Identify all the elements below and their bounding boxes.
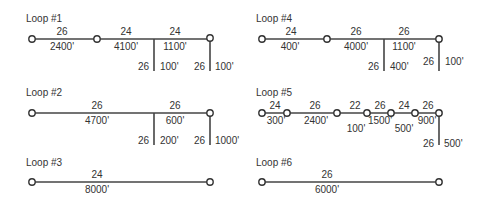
loop-title: Loop #6 bbox=[256, 157, 293, 168]
branch-size: 26 bbox=[423, 56, 435, 67]
loop-1: Loop #1 26 2400' 24 4100' 24 1100' 26 10… bbox=[26, 13, 234, 72]
branch-length: 100' bbox=[215, 61, 234, 72]
loop-title: Loop #3 bbox=[26, 157, 63, 168]
segment-length: 1100' bbox=[163, 41, 187, 52]
segment-size: 24 bbox=[91, 169, 103, 180]
node-icon bbox=[259, 110, 265, 116]
segment-size: 26 bbox=[422, 100, 434, 111]
node-icon bbox=[29, 179, 35, 185]
segment-length: 6000' bbox=[315, 184, 339, 195]
node-icon bbox=[259, 36, 265, 42]
segment-size: 24 bbox=[269, 100, 281, 111]
segment-size: 26 bbox=[374, 100, 386, 111]
node-icon bbox=[207, 179, 213, 185]
node-icon bbox=[94, 36, 100, 42]
node-icon bbox=[207, 35, 213, 41]
node-icon bbox=[324, 36, 330, 42]
branch-size: 26 bbox=[368, 61, 380, 72]
segment-length: 100' bbox=[347, 123, 366, 134]
segment-size: 22 bbox=[349, 100, 361, 111]
segment-size: 26 bbox=[398, 26, 410, 37]
node-icon bbox=[436, 179, 442, 185]
loop-6: Loop #6 26 6000' bbox=[256, 157, 442, 195]
branch-length: 100' bbox=[445, 56, 464, 67]
branch-size: 26 bbox=[194, 135, 206, 146]
segment-length: 4700' bbox=[85, 115, 109, 126]
loop-title: Loop #2 bbox=[26, 87, 63, 98]
branch-length: 500' bbox=[444, 138, 463, 149]
segment-length: 900' bbox=[418, 115, 437, 126]
branch-length: 100' bbox=[160, 61, 179, 72]
segment-length: 1100' bbox=[392, 41, 416, 52]
node-icon bbox=[334, 110, 340, 116]
segment-length: 1500' bbox=[368, 115, 392, 126]
loop-diagram: Loop #1 26 2400' 24 4100' 24 1100' 26 10… bbox=[0, 0, 488, 206]
segment-length: 4000' bbox=[344, 41, 368, 52]
loop-3: Loop #3 24 8000' bbox=[26, 157, 213, 195]
segment-size: 24 bbox=[169, 26, 181, 37]
segment-size: 26 bbox=[56, 26, 68, 37]
segment-size: 24 bbox=[285, 26, 297, 37]
segment-size: 26 bbox=[309, 100, 321, 111]
loop-title: Loop #4 bbox=[256, 13, 293, 24]
node-icon bbox=[29, 36, 35, 42]
segment-length: 2400' bbox=[50, 41, 74, 52]
branch-length: 1000' bbox=[215, 135, 239, 146]
branch-size: 26 bbox=[423, 138, 435, 149]
branch-length: 200' bbox=[160, 135, 179, 146]
segment-size: 24 bbox=[120, 26, 132, 37]
node-icon bbox=[207, 110, 213, 116]
segment-length: 2400' bbox=[304, 115, 328, 126]
loop-title: Loop #1 bbox=[26, 13, 63, 24]
node-icon bbox=[259, 179, 265, 185]
node-icon bbox=[29, 110, 35, 116]
node-icon bbox=[436, 110, 442, 116]
loop-2: Loop #2 26 4700' 26 600' 26 200' 26 1000… bbox=[26, 87, 239, 146]
loop-5: Loop #5 24 300' 26 2400' 22 100' 26 1500… bbox=[256, 87, 463, 149]
segment-length: 8000' bbox=[85, 184, 109, 195]
branch-size: 26 bbox=[138, 61, 150, 72]
loop-4: Loop #4 24 400' 26 4000' 26 1100' 26 400… bbox=[256, 13, 464, 72]
branch-length: 400' bbox=[390, 61, 409, 72]
segment-size: 26 bbox=[169, 100, 181, 111]
segment-length: 600' bbox=[166, 115, 185, 126]
branch-size: 26 bbox=[194, 61, 206, 72]
segment-size: 24 bbox=[398, 100, 410, 111]
node-icon bbox=[436, 36, 442, 42]
segment-length: 300' bbox=[267, 115, 286, 126]
segment-size: 26 bbox=[350, 26, 362, 37]
loop-title: Loop #5 bbox=[256, 87, 293, 98]
segment-length: 500' bbox=[395, 123, 414, 134]
segment-size: 26 bbox=[91, 100, 103, 111]
segment-length: 4100' bbox=[114, 41, 138, 52]
segment-length: 400' bbox=[281, 41, 300, 52]
branch-size: 26 bbox=[138, 135, 150, 146]
segment-size: 26 bbox=[321, 169, 333, 180]
